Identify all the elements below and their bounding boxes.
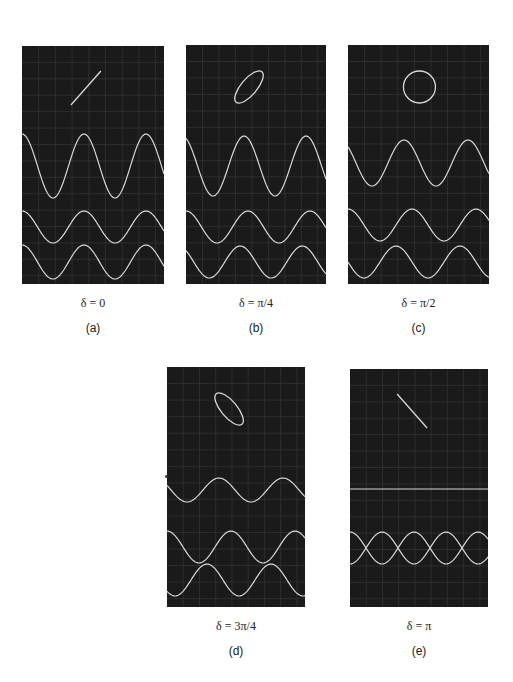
delta-label-a: δ = 0 [23, 296, 163, 311]
sum-waveform [348, 140, 489, 186]
lissajous-figure [397, 394, 427, 428]
scope-panel-c [348, 45, 489, 284]
panel-label-b: (b) [186, 321, 326, 335]
y-waveform [350, 532, 488, 564]
panel-label-c: (c) [349, 321, 489, 335]
scope-panel-b [186, 45, 326, 284]
x-waveform [186, 211, 326, 243]
y-waveform [348, 246, 489, 278]
y-waveform [186, 246, 326, 278]
scope-panel-e [350, 369, 488, 607]
sum-waveform [22, 134, 164, 198]
delta-label-e: δ = π [349, 619, 489, 634]
sum-waveform [167, 478, 305, 502]
graticule-grid [186, 45, 326, 284]
x-waveform [348, 209, 489, 241]
scope-traces-a [22, 46, 164, 284]
panel-label-d: (d) [166, 644, 306, 658]
delta-label-b: δ = π/4 [186, 296, 326, 311]
graticule-grid [167, 367, 305, 607]
delta-label-d: δ = 3π/4 [166, 619, 306, 634]
y-waveform [22, 245, 164, 279]
graticule-grid [22, 46, 164, 284]
panel-label-a: (a) [23, 321, 163, 335]
scope-traces-e [350, 369, 488, 607]
scope-panel-d [167, 367, 305, 607]
scope-traces-b [186, 45, 326, 284]
delta-label-c: δ = π/2 [349, 296, 489, 311]
lissajous-figure [71, 71, 101, 105]
x-waveform [22, 211, 164, 243]
x-waveform [167, 531, 305, 563]
x-waveform [350, 532, 488, 564]
y-waveform [167, 564, 305, 596]
scope-traces-d [167, 367, 305, 607]
panel-label-e: (e) [349, 644, 489, 658]
scope-traces-c [348, 45, 489, 284]
trigger-marker-dot [165, 475, 168, 478]
sum-waveform [186, 136, 326, 196]
scope-panel-a [22, 46, 164, 284]
graticule-grid [350, 369, 488, 607]
graticule-grid [348, 45, 489, 284]
